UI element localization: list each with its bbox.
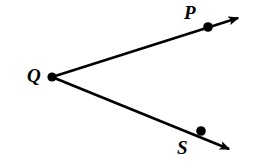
point-dot-s bbox=[196, 126, 206, 136]
vertex-dot-q bbox=[47, 72, 56, 81]
point-label-q: Q bbox=[27, 66, 41, 85]
point-label-s: S bbox=[177, 138, 188, 157]
point-dot-p bbox=[203, 22, 213, 32]
ray-qs bbox=[52, 77, 229, 149]
point-label-p: P bbox=[184, 3, 196, 22]
geometry-diagram: Q P S bbox=[0, 0, 256, 168]
